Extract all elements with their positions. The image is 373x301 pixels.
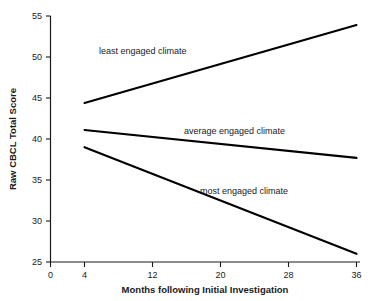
y-tick-label-50: 50 bbox=[32, 52, 42, 62]
series-line-least-engaged-climate bbox=[85, 25, 357, 103]
y-tick-label-25: 25 bbox=[32, 257, 42, 267]
line-chart: 25 30 35 40 45 50 55 0 4 12 20 28 36 Mon… bbox=[0, 0, 373, 301]
series-annotation-average-engaged-climate: average engaged climate bbox=[184, 126, 285, 136]
x-tick-label-0: 0 bbox=[48, 270, 53, 280]
y-tick-label-45: 45 bbox=[32, 93, 42, 103]
series-line-most-engaged-climate bbox=[85, 147, 357, 254]
y-tick-label-30: 30 bbox=[32, 216, 42, 226]
x-tick-label-20: 20 bbox=[215, 270, 225, 280]
x-tick-label-4: 4 bbox=[82, 270, 87, 280]
x-tick-label-36: 36 bbox=[351, 270, 361, 280]
x-tick-label-28: 28 bbox=[283, 270, 293, 280]
chart-container: 25 30 35 40 45 50 55 0 4 12 20 28 36 Mon… bbox=[0, 0, 373, 301]
x-tick-label-12: 12 bbox=[147, 270, 157, 280]
series-annotation-least-engaged-climate: least engaged climate bbox=[99, 46, 187, 56]
x-axis-title: Months following Initial Investigation bbox=[122, 284, 289, 295]
y-tick-label-40: 40 bbox=[32, 134, 42, 144]
series-annotation-most-engaged-climate: most engaged climate bbox=[200, 186, 288, 196]
y-tick-label-55: 55 bbox=[32, 11, 42, 21]
y-axis-title: Raw CBCL Total Score bbox=[7, 88, 18, 190]
series-lines-group bbox=[85, 25, 357, 254]
y-tick-label-35: 35 bbox=[32, 175, 42, 185]
